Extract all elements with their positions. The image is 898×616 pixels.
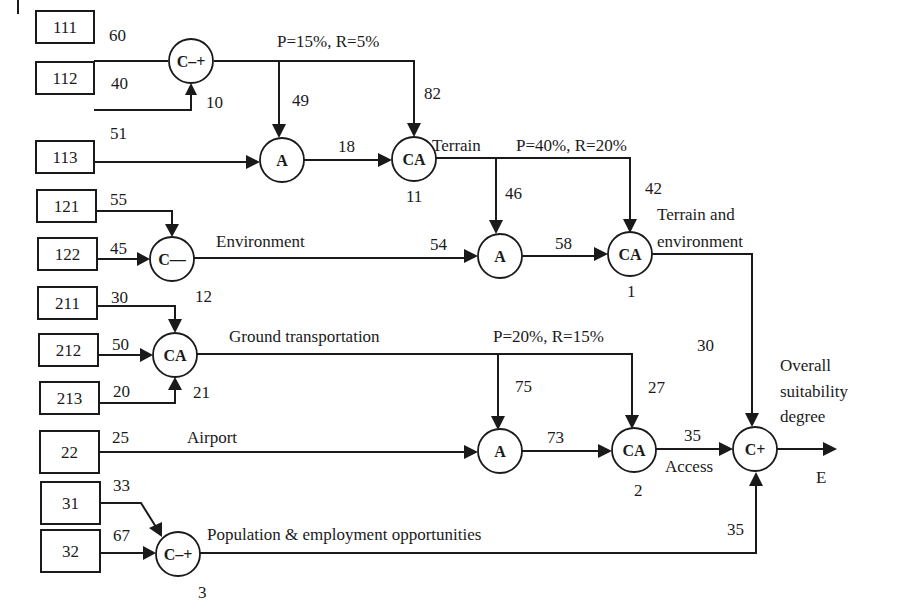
operator-label: C–+ (164, 546, 193, 563)
annotation-te2: environment (657, 232, 743, 251)
edge-weight: 46 (505, 184, 522, 203)
edge-weight: 35 (684, 426, 701, 445)
operator-label: CA (402, 151, 426, 168)
input-box-label: 121 (54, 197, 80, 216)
input-box-label: 112 (53, 69, 78, 88)
input-box-212: 212 (39, 334, 98, 366)
annotation-pr1: P=15%, R=5% (277, 32, 379, 51)
edge-weight: 51 (110, 124, 127, 143)
edge-weight: 35 (727, 520, 744, 539)
operator-label: CA (618, 246, 642, 263)
operator-node-nE: C+ (733, 427, 777, 471)
edge-weight: 18 (338, 137, 355, 156)
annotation-pr3: P=20%, R=15% (493, 327, 604, 346)
annotation-pr2: P=40%, R=20% (516, 136, 627, 155)
input-box-label: 31 (62, 494, 79, 513)
operator-node-nA2: A (478, 234, 522, 278)
edge-weight: 30 (697, 336, 714, 355)
edge-weight: 27 (648, 378, 666, 397)
input-box-121: 121 (37, 190, 96, 222)
edge-weight: 40 (111, 74, 128, 93)
edge-weight: 50 (112, 335, 129, 354)
operator-node-nA1: A (260, 138, 304, 182)
operator-node-n12: C––12 (150, 237, 212, 306)
annotation-os3: degree (780, 407, 825, 426)
input-box-113: 113 (36, 141, 94, 173)
edge-weight: 25 (112, 428, 129, 447)
operator-label: C–+ (177, 53, 206, 70)
edge-weight: 60 (109, 26, 126, 45)
operator-node-n11: CA11 (392, 137, 436, 206)
input-box-211: 211 (38, 287, 97, 319)
edge-weight: 54 (430, 235, 448, 254)
operator-label: C+ (745, 441, 766, 458)
input-box-label: 32 (62, 542, 79, 561)
input-box-111: 111 (36, 11, 94, 43)
input-box-112: 112 (36, 62, 94, 94)
annotation-ground: Ground transportation (229, 327, 380, 346)
input-box-22: 22 (40, 431, 99, 473)
node-number: 3 (198, 583, 207, 602)
node-number: 2 (634, 481, 643, 500)
operator-node-n1: CA1 (608, 232, 652, 301)
edge-weight: 75 (515, 377, 532, 396)
input-box-label: 212 (56, 341, 82, 360)
edge-weight: 67 (113, 526, 131, 545)
input-box-label: 213 (57, 389, 83, 408)
input-box-label: 113 (53, 148, 78, 167)
annotation-terrain: Terrain (432, 136, 481, 155)
edge-weight: 20 (113, 382, 130, 401)
operator-label: CA (622, 442, 646, 459)
annotation-pop: Population & employment opportunities (207, 525, 481, 544)
annotation-environment: Environment (216, 232, 305, 251)
operator-label: C–– (158, 251, 187, 268)
node-number: 12 (195, 287, 212, 306)
annotation-access: Access (665, 457, 713, 476)
operator-label: A (494, 443, 506, 460)
operator-node-n3: C–+3 (156, 532, 207, 602)
operator-nodes: C–+10ACA11C––12ACA1CA21ACA2C+C–+3 (150, 39, 777, 602)
input-box-label: 122 (55, 245, 81, 264)
edge-weight: 58 (555, 234, 572, 253)
input-box-213: 213 (40, 382, 99, 414)
input-box-label: 22 (61, 443, 78, 462)
input-box-32: 32 (41, 530, 100, 572)
edge-weight: 30 (111, 288, 128, 307)
node-number: 11 (406, 187, 422, 206)
operator-label: CA (163, 347, 187, 364)
annotation-E: E (816, 468, 826, 487)
operator-node-n10: C–+10 (169, 39, 223, 112)
node-number: 1 (627, 282, 636, 301)
annotation-te1: Terrain and (657, 205, 735, 224)
annotation-os1: Overall (780, 356, 831, 375)
annotation-os2: suitability (780, 382, 849, 401)
input-box-122: 122 (38, 238, 97, 270)
input-box-label: 211 (55, 294, 80, 313)
input-boxes: 111112113121122211212213223132 (36, 11, 100, 572)
operator-node-n21: CA21 (153, 333, 210, 402)
operator-label: A (276, 152, 288, 169)
annotation-airport: Airport (187, 428, 237, 447)
node-number: 21 (193, 383, 210, 402)
edge-weight: 55 (110, 190, 127, 209)
node-number: 10 (206, 93, 223, 112)
edge-weight: 73 (547, 428, 564, 447)
input-box-label: 111 (53, 18, 77, 37)
operator-node-nA3: A (478, 429, 522, 473)
edge-weight: 45 (110, 239, 127, 258)
edge-weight: 33 (113, 476, 130, 495)
edge-weight: 42 (645, 179, 662, 198)
aggregation-diagram: 111112113121122211212213223132 C–+10ACA1… (0, 0, 898, 616)
operator-label: A (494, 248, 506, 265)
input-box-31: 31 (41, 482, 100, 524)
edge-weight: 82 (424, 84, 441, 103)
operator-node-n2: CA2 (612, 428, 656, 500)
edge-weight: 49 (292, 91, 309, 110)
